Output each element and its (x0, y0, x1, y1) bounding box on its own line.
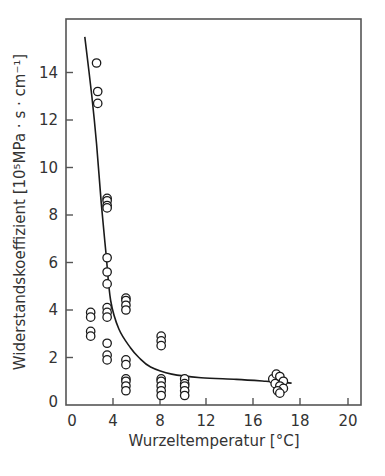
data-point-circle (180, 391, 188, 399)
data-point-circle (92, 59, 100, 67)
y-tick-label: 14 (39, 64, 58, 82)
data-point-circle (103, 254, 111, 262)
x-tick-label: 0 (67, 412, 77, 430)
x-tick-label: 16 (243, 412, 262, 430)
data-point-circle (157, 391, 165, 399)
data-point-circle (94, 99, 102, 107)
data-point-circle (86, 313, 94, 321)
y-tick-label: 10 (39, 159, 58, 177)
data-point-circle (103, 268, 111, 276)
plot-border (66, 19, 361, 405)
fit-curve-line (85, 37, 292, 383)
data-point-circle (103, 339, 111, 347)
x-tick-label: 12 (196, 412, 215, 430)
fit-curve (85, 37, 292, 383)
y-tick-label: 8 (48, 206, 58, 224)
x-tick-label: 20 (338, 412, 357, 430)
data-point-circle (103, 204, 111, 212)
y-tick-label: 6 (48, 254, 58, 272)
plot-frame (66, 19, 361, 405)
data-point-circle (94, 87, 102, 95)
data-point-circle (103, 280, 111, 288)
y-axis-title: Widerstandskoeffizient [10⁵MPa · s · cm⁻… (11, 54, 29, 370)
x-axis-title: Wurzeltemperatur [°C] (128, 432, 299, 450)
y-axis-ticks: 02468101214 (39, 64, 73, 412)
data-point-circle (122, 360, 130, 368)
data-point-circle (122, 306, 130, 314)
y-tick-label: 0 (48, 393, 58, 411)
y-tick-label: 12 (39, 111, 58, 129)
x-axis-ticks: 04812161820 (67, 398, 357, 430)
data-point-circle (86, 332, 94, 340)
data-point-circle (157, 341, 165, 349)
data-point-circle (122, 387, 130, 395)
y-tick-label: 2 (48, 349, 58, 367)
x-tick-label: 4 (108, 412, 118, 430)
x-tick-label: 18 (290, 412, 309, 430)
data-point-circle (276, 389, 284, 397)
y-tick-label: 4 (48, 301, 58, 319)
resistance-vs-root-temperature-chart: 02468101214 04812161820 Wurzeltemperatur… (0, 0, 385, 476)
data-point-circle (103, 356, 111, 364)
data-points (86, 59, 287, 400)
data-point-circle (103, 313, 111, 321)
x-tick-label: 8 (155, 412, 165, 430)
